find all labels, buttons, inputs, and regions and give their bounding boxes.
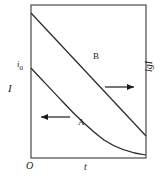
y-axis-right-title: lgI [144, 61, 154, 72]
curve-a-path [31, 68, 146, 155]
plot-frame [31, 5, 146, 158]
figure-container: i0 I lgI O t A B [0, 0, 165, 180]
y-axis-left-title: I [8, 83, 12, 94]
plot-canvas [0, 0, 165, 180]
y-axis-initial-value-label: i0 [17, 60, 23, 72]
curve-b-label: B [93, 52, 99, 61]
x-axis-title: t [84, 162, 87, 172]
arrow-right-icon [105, 84, 134, 90]
arrow-left-icon [41, 114, 70, 120]
curve-a-label: A [78, 118, 85, 127]
origin-label: O [26, 161, 33, 171]
